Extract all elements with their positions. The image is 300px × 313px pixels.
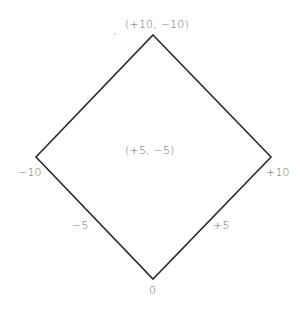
right-vertex-label: +10	[266, 167, 290, 178]
lower-left-edge-label: −5	[72, 220, 89, 231]
lower-right-edge-label: +5	[213, 220, 230, 231]
diamond-shape	[36, 35, 271, 279]
bottom-vertex-label: 0	[149, 285, 156, 296]
left-vertex-label: −10	[18, 167, 42, 178]
center-label: (+5, −5)	[125, 145, 175, 156]
top-vertex-label: (+10, −10)	[125, 19, 189, 30]
stray-dot	[114, 33, 116, 35]
